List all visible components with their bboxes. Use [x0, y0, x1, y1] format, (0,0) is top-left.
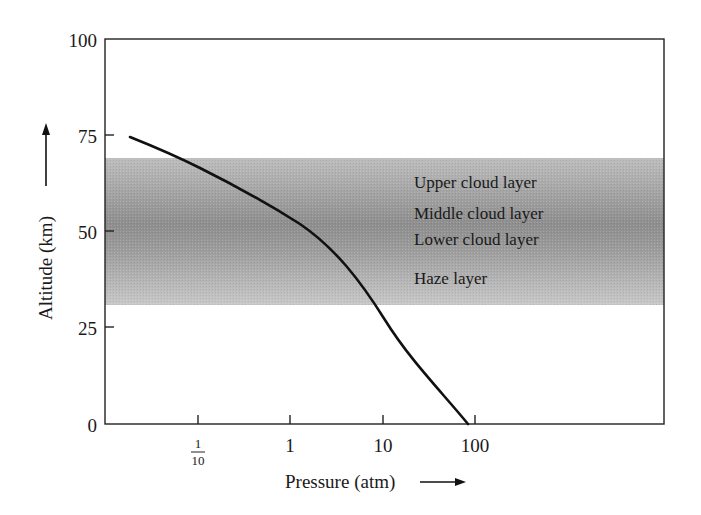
up-arrow-icon	[42, 123, 50, 186]
chart-svg: 100 75 50 25 0 1 10 1 10 100 Pressure (a…	[0, 0, 701, 515]
x-tick-tenth-denominator: 10	[192, 453, 205, 468]
x-tick-100: 100	[461, 435, 490, 456]
middle-cloud-layer-label: Middle cloud layer	[414, 204, 544, 223]
x-tick-1: 1	[285, 435, 295, 456]
lower-cloud-layer-label: Lower cloud layer	[414, 230, 539, 249]
cloud-band	[105, 158, 664, 305]
y-axis-label: Altitude (km)	[35, 216, 57, 320]
x-tick-labels: 1 10 1 10 100	[191, 435, 489, 468]
y-tick-50: 50	[78, 222, 97, 243]
x-tick-10: 10	[374, 435, 393, 456]
haze-layer-label: Haze layer	[414, 269, 487, 288]
x-tick-tenth-numerator: 1	[195, 436, 202, 451]
x-ticks	[198, 415, 475, 424]
right-arrow-icon	[420, 478, 466, 486]
upper-cloud-layer-label: Upper cloud layer	[414, 173, 537, 192]
y-tick-100: 100	[69, 30, 98, 51]
x-axis-label: Pressure (atm)	[285, 471, 395, 493]
y-tick-25: 25	[78, 318, 97, 339]
y-tick-75: 75	[78, 126, 97, 147]
y-tick-0: 0	[88, 415, 98, 436]
y-tick-labels: 100 75 50 25 0	[69, 30, 98, 436]
